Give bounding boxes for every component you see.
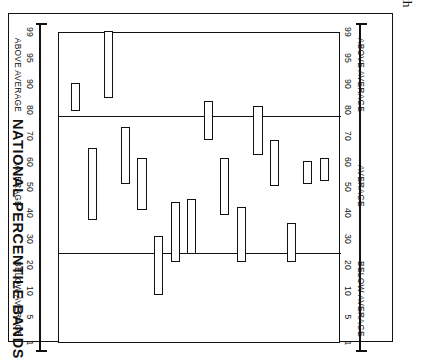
band-divider-24 [59,253,341,254]
axis-tick-label-30: 30 [343,234,353,244]
axis-tick-label-10: 10 [343,286,353,296]
axis-tick-label-80: 80 [343,105,353,115]
axis-tick-label-95: 95 [343,53,353,63]
axis-tick-label-90: 90 [343,79,353,89]
score-band-bar [87,148,96,221]
score-band-bar [203,101,212,140]
score-band-bar [286,223,295,262]
rail-cap-left-2 [356,350,367,352]
score-band-bar [187,199,196,253]
axis-tick-label-60: 60 [343,157,353,167]
plot-area [58,32,340,343]
score-band-bar [104,31,113,98]
score-band-bar [137,158,146,210]
axis-tick-label-40: 40 [343,208,353,218]
figure-outer-frame: NATIONAL PERCENTILE BANDS 15102030405060… [8,13,393,342]
axis-tick-label-20: 20 [343,260,353,270]
score-band-bar [236,207,245,261]
percentile-chart: NATIONAL PERCENTILE BANDS 15102030405060… [9,14,391,343]
axis-tick-label-70: 70 [343,131,353,141]
band-label: ABOVE AVERAGE [356,38,366,113]
band-label: BELOW AVERAGE [356,261,366,337]
score-band-bar [120,127,129,184]
score-band-bar [319,158,328,181]
score-band-bar [220,158,229,215]
axis-tick-label-1: 1 [343,341,353,346]
score-band-bar [170,202,179,262]
score-band-bar [153,236,162,296]
axis-tick-label-50: 50 [343,183,353,193]
band-divider-77 [59,116,341,117]
axis-tick-label-5: 5 [343,315,353,320]
figure-caption: Figure 2.6. Scores of Jay, who has ADD, … [390,0,424,14]
score-band-bar [270,140,279,187]
rail-cap-left [36,350,47,352]
score-band-bar [303,161,312,184]
score-band-bar [253,106,262,155]
figure-caption-text: Scores of Jay, who has ADD, when he was … [399,0,415,7]
axis-tick-label-99: 99 [343,27,353,37]
score-band-bar [70,83,79,112]
band-label: AVERAGE [356,165,366,207]
